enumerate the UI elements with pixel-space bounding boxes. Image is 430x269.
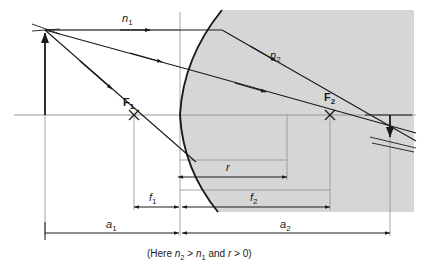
- label-a2: a2: [280, 218, 291, 233]
- label-f1-focal-point: F1: [123, 96, 135, 111]
- label-n1: n1: [122, 12, 133, 27]
- label-a1: a1: [106, 218, 117, 233]
- caption-line: (Here n2 > n1 and r > 0): [147, 248, 252, 262]
- label-f1-distance: f1: [149, 191, 157, 206]
- figure-caption: (Here n2 > n1 and r > 0): [147, 248, 252, 262]
- medium-n2-region: [180, 10, 414, 212]
- ray-fan-object-tip: [32, 24, 60, 34]
- optics-figure: n1 n2 F1 F2 r f1 f2: [0, 0, 430, 269]
- ray-steep-through-f1: [45, 30, 196, 162]
- refraction-diagram: n1 n2 F1 F2 r f1 f2: [0, 0, 430, 269]
